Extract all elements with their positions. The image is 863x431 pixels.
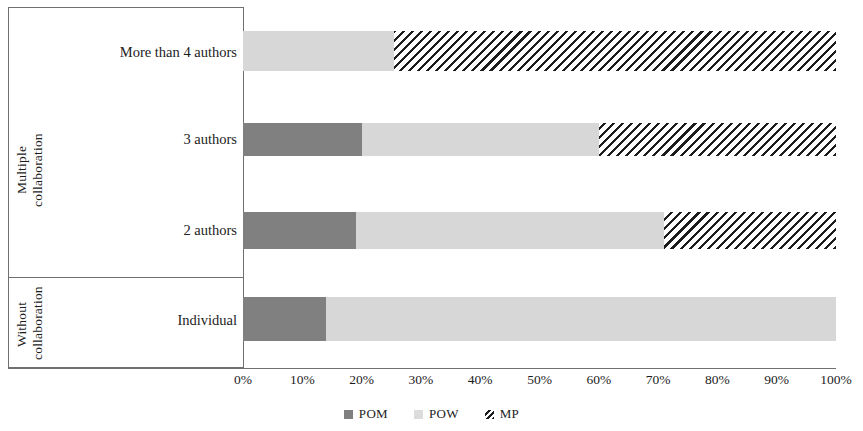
plot-area xyxy=(243,7,836,368)
legend-label-pom: POM xyxy=(359,406,388,422)
x-tick-100: 100% xyxy=(820,372,852,388)
legend-label-pow: POW xyxy=(429,406,459,422)
legend-item-pow[interactable]: POW xyxy=(414,406,459,422)
bar-segment-2-authors-pow[interactable] xyxy=(356,212,664,249)
category-label-more-than-4-authors: More than 4 authors xyxy=(120,44,237,61)
x-tick-60: 60% xyxy=(586,372,611,388)
group-divider xyxy=(8,277,244,278)
x-tick-20: 20% xyxy=(349,372,374,388)
x-tick-50: 50% xyxy=(527,372,552,388)
group-label-without-line1: Without xyxy=(14,301,29,346)
group-label-multiple-line2: collaboration xyxy=(30,133,45,207)
legend-swatch-pow-icon xyxy=(414,410,423,419)
group-label-multiple-collaboration: Multiple collaboration xyxy=(14,90,48,250)
bar-segment-more-than-4-authors-pow[interactable] xyxy=(243,31,394,71)
legend: POM POW MP xyxy=(0,406,863,422)
group-label-without-line2: collaboration xyxy=(30,286,45,360)
x-tick-70: 70% xyxy=(646,372,671,388)
bar-segment-individual-pow[interactable] xyxy=(326,297,836,341)
legend-item-mp[interactable]: MP xyxy=(485,406,519,422)
bar-segment-2-authors-pom[interactable] xyxy=(243,212,356,249)
bar-row-individual xyxy=(243,297,836,341)
bar-row-2-authors xyxy=(243,212,836,249)
bar-segment-3-authors-pom[interactable] xyxy=(243,123,362,156)
legend-item-pom[interactable]: POM xyxy=(344,406,388,422)
category-label-3-authors: 3 authors xyxy=(183,131,237,148)
bar-segment-3-authors-pow[interactable] xyxy=(362,123,599,156)
legend-swatch-mp-icon xyxy=(485,410,494,419)
bar-row-3-authors xyxy=(243,123,836,156)
x-tick-30: 30% xyxy=(409,372,434,388)
bar-row-more-than-4-authors xyxy=(243,31,836,71)
bar-segment-more-than-4-authors-mp[interactable] xyxy=(394,31,836,71)
bar-segment-3-authors-mp[interactable] xyxy=(599,123,836,156)
x-tick-0: 0% xyxy=(234,372,252,388)
category-label-individual: Individual xyxy=(177,312,237,329)
legend-swatch-pom-icon xyxy=(344,410,353,419)
category-label-2-authors: 2 authors xyxy=(183,222,237,239)
legend-label-mp: MP xyxy=(500,406,519,422)
bar-segment-2-authors-mp[interactable] xyxy=(664,212,836,249)
x-tick-10: 10% xyxy=(290,372,315,388)
x-tick-40: 40% xyxy=(468,372,493,388)
x-tick-80: 80% xyxy=(705,372,730,388)
x-tick-90: 90% xyxy=(764,372,789,388)
group-label-without-collaboration: Without collaboration xyxy=(14,288,48,360)
bar-segment-individual-pom[interactable] xyxy=(243,297,326,341)
group-label-multiple-line1: Multiple xyxy=(14,146,29,194)
stacked-bar-chart: Multiple collaboration Without collabora… xyxy=(0,0,863,431)
